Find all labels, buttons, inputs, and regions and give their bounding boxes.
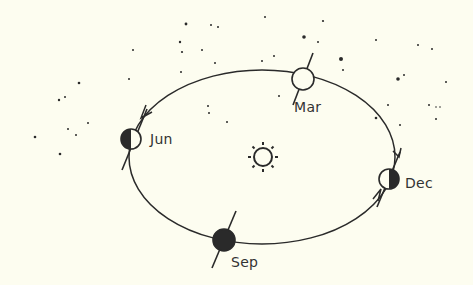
label-jun: Jun <box>150 131 173 147</box>
orbit-diagram: Mar Jun Sep Dec <box>0 0 473 285</box>
sun-icon <box>248 142 278 172</box>
earth-dec <box>377 152 400 207</box>
label-mar: Mar <box>294 99 321 115</box>
label-dec: Dec <box>405 175 433 191</box>
star-field <box>34 16 447 155</box>
earth-jun <box>121 109 147 170</box>
diagram-canvas <box>0 0 473 285</box>
label-sep: Sep <box>231 254 258 270</box>
earth-mar <box>292 53 314 105</box>
